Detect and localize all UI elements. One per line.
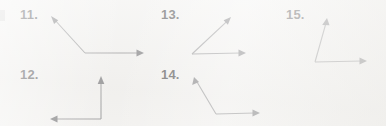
- arrowhead-right-15: [360, 58, 368, 65]
- worksheet-page: 11. 12. 13. 14.: [0, 0, 386, 126]
- ray-segment-up-15: [315, 23, 326, 62]
- arrowhead-up-15: [322, 18, 329, 25]
- ray-segment-right-15: [315, 61, 362, 62]
- ray-up-15: [315, 18, 330, 62]
- angle-figure-15: [0, 0, 386, 126]
- ray-right-15: [315, 58, 367, 65]
